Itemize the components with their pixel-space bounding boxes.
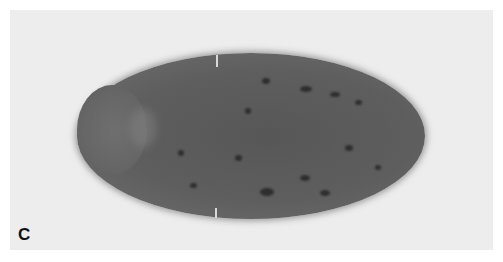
panel-label: C xyxy=(18,225,30,245)
dorsal-notch xyxy=(216,55,218,67)
ventral-notch xyxy=(215,208,217,218)
cephalic-furrow-highlight xyxy=(130,108,156,148)
